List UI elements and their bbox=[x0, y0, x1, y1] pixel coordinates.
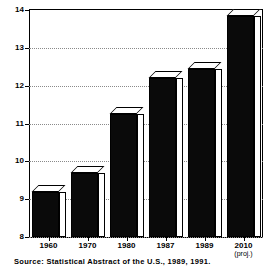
bar-top-face bbox=[71, 166, 105, 173]
y-tick-mark bbox=[25, 161, 29, 162]
bar-front-face bbox=[188, 69, 215, 237]
y-tick-label: 9 bbox=[6, 195, 24, 203]
y-tick-label: 10 bbox=[6, 157, 24, 165]
bar-side-face bbox=[176, 78, 183, 237]
y-tick-label: 12 bbox=[6, 82, 24, 90]
plot-area bbox=[29, 10, 263, 237]
y-tick-mark bbox=[25, 10, 29, 11]
bar-chart: 891011121314 196019701980198719892010(pr… bbox=[0, 0, 268, 267]
y-tick-label: 11 bbox=[6, 120, 24, 128]
x-tick-label: 1970 bbox=[68, 241, 108, 250]
bar-side-face bbox=[254, 16, 261, 237]
bar bbox=[188, 62, 222, 237]
bar-side-face bbox=[59, 192, 66, 237]
bar bbox=[227, 9, 261, 237]
bar-front-face bbox=[227, 16, 254, 237]
y-tick-label: 13 bbox=[6, 44, 24, 52]
y-tick-mark bbox=[25, 237, 29, 238]
y-tick-mark bbox=[25, 199, 29, 200]
bar-side-face bbox=[137, 114, 144, 237]
bar-front-face bbox=[149, 78, 176, 237]
bar-front-face bbox=[110, 114, 137, 237]
source-note: Source: Statistical Abstract of the U.S.… bbox=[14, 257, 211, 266]
y-tick-label: 14 bbox=[6, 6, 24, 14]
x-tick-label: 1960 bbox=[29, 241, 69, 250]
bar-front-face bbox=[32, 192, 59, 237]
x-tick-label: 1980 bbox=[107, 241, 147, 250]
x-tick-label: 1987 bbox=[146, 241, 186, 250]
bar-top-face bbox=[32, 185, 66, 192]
bar-top-face bbox=[149, 71, 183, 78]
y-tick-mark bbox=[25, 86, 29, 87]
bar bbox=[110, 107, 144, 237]
gridline bbox=[29, 237, 263, 238]
y-tick-mark bbox=[25, 48, 29, 49]
y-tick-label: 8 bbox=[6, 233, 24, 241]
y-tick-mark bbox=[25, 124, 29, 125]
bar-top-face bbox=[110, 107, 144, 114]
bar bbox=[71, 166, 105, 237]
bar-side-face bbox=[215, 69, 222, 237]
bar-top-face bbox=[188, 62, 222, 69]
bar-side-face bbox=[98, 173, 105, 237]
x-tick-label: 1989 bbox=[185, 241, 225, 250]
x-tick-label: 2010 bbox=[224, 241, 264, 250]
x-tick-sublabel: (proj.) bbox=[224, 250, 264, 258]
bar bbox=[149, 71, 183, 237]
bar-front-face bbox=[71, 173, 98, 237]
bar-top-face bbox=[227, 9, 261, 16]
bar bbox=[32, 185, 66, 237]
